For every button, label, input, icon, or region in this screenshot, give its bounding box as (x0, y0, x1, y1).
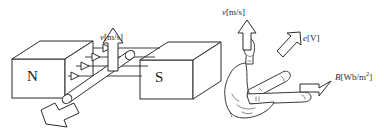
diagram-vector-graphics: .s { fill: none; stroke: #2b2b2b; stroke… (0, 0, 384, 130)
emf-arrow-hand (277, 32, 301, 57)
emf-label-hand: e[V] (303, 34, 320, 43)
flux-density-label-hand: B[Wb/m2] (335, 73, 372, 82)
rod-motion-arrow (41, 103, 79, 127)
emf-unit-hand: [V] (307, 33, 320, 43)
velocity-label-left: v[m/s] (100, 33, 123, 42)
magnet-south-label: S (155, 70, 163, 85)
right-hand-illustration (225, 39, 311, 118)
magnet-south-block (140, 42, 221, 99)
velocity-label-hand: v[m/s] (222, 8, 245, 17)
flux-density-unit-suffix: ] (369, 72, 372, 82)
flux-density-unit-prefix: [Wb/m (341, 72, 367, 82)
velocity-unit-hand: [m/s] (226, 7, 245, 17)
physics-diagram-canvas: .s { fill: none; stroke: #2b2b2b; stroke… (0, 0, 384, 130)
magnet-north-label: N (27, 69, 38, 84)
velocity-unit-left: [m/s] (104, 32, 123, 42)
